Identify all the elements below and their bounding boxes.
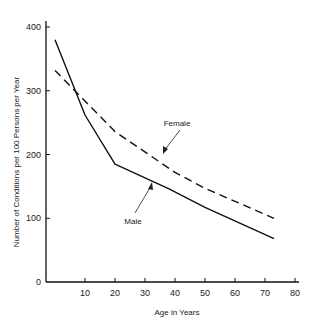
y-tick-label: 400 bbox=[26, 22, 41, 32]
male-line bbox=[55, 40, 274, 239]
male-annotation-label: Male bbox=[124, 217, 142, 226]
male-arrow bbox=[135, 186, 151, 213]
x-axis-title: Age in Years bbox=[155, 308, 200, 317]
x-tick-label: 70 bbox=[260, 288, 270, 298]
y-tick-label: 200 bbox=[26, 150, 41, 160]
male-arrowhead-icon bbox=[148, 182, 153, 190]
y-tick-label: 0 bbox=[36, 277, 41, 287]
x-tick-label: 20 bbox=[110, 288, 120, 298]
x-tick-label: 30 bbox=[140, 288, 150, 298]
y-axis-title: Number of Conditions per 100 Persons per… bbox=[12, 77, 21, 248]
line-chart: 01002003004001020304050607080 Female Mal… bbox=[0, 0, 316, 332]
female-arrow bbox=[164, 130, 180, 151]
series-lines bbox=[55, 40, 274, 239]
female-line bbox=[55, 70, 274, 218]
female-annotation-label: Female bbox=[164, 119, 191, 128]
x-tick-label: 80 bbox=[290, 288, 300, 298]
axes: 01002003004001020304050607080 bbox=[26, 21, 300, 298]
x-tick-label: 10 bbox=[80, 288, 90, 298]
x-tick-label: 50 bbox=[200, 288, 210, 298]
y-tick-label: 300 bbox=[26, 86, 41, 96]
x-tick-label: 60 bbox=[230, 288, 240, 298]
y-tick-label: 100 bbox=[26, 213, 41, 223]
x-tick-label: 40 bbox=[170, 288, 180, 298]
